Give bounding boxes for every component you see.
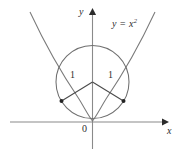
radius-label-left: 1 — [70, 70, 75, 80]
equation-base: y = x — [112, 18, 134, 29]
math-figure: y x 0 1 1 y = x2 — [0, 0, 181, 155]
y-axis-label: y — [79, 7, 83, 17]
equation-exponent: 2 — [134, 17, 137, 24]
origin-label: 0 — [82, 124, 87, 134]
radius-segment-left — [62, 82, 93, 101]
radius-segment-right — [93, 82, 124, 101]
x-axis-label: x — [167, 126, 171, 136]
equation-label: y = x2 — [112, 19, 137, 29]
y-axis-arrowhead — [89, 8, 96, 15]
figure-canvas — [0, 0, 181, 155]
intersection-point-left — [60, 99, 64, 103]
intersection-point-right — [122, 99, 126, 103]
radius-label-right: 1 — [108, 70, 113, 80]
